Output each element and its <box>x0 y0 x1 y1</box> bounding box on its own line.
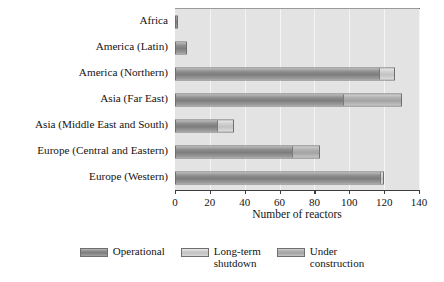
category-label: Europe (Central and Eastern) <box>0 138 172 164</box>
legend-item-operational: Operational <box>80 246 165 258</box>
bar-segment-construction <box>343 95 401 106</box>
x-axis-tick-label: 20 <box>204 196 215 208</box>
x-axis-tick-label: 80 <box>309 196 320 208</box>
x-axis-tick-label: 0 <box>172 196 178 208</box>
category-label: America (Latin) <box>0 34 172 60</box>
bar-rows <box>175 9 419 191</box>
plot-area <box>175 8 420 191</box>
bar-segment-operational <box>176 173 380 184</box>
legend-swatch-construction-icon <box>277 248 305 257</box>
bar-segment-shutdown <box>380 173 383 184</box>
x-axis-tick <box>314 190 315 194</box>
x-axis-tick-label: 60 <box>274 196 285 208</box>
bar-segment-shutdown <box>379 69 394 80</box>
bar-row <box>175 165 419 191</box>
bar-row <box>175 139 419 165</box>
gridline <box>419 9 420 191</box>
bar-segment-operational <box>176 95 343 106</box>
x-axis-title: Number of reactors <box>175 208 419 220</box>
legend-item-under-construction: Under construction <box>277 246 364 270</box>
category-axis-labels: Africa America (Latin) America (Northern… <box>0 8 172 190</box>
x-axis-tick-label: 120 <box>376 196 393 208</box>
bar-segment-operational <box>176 147 292 158</box>
stacked-bar[interactable] <box>175 172 384 185</box>
stacked-bar[interactable] <box>175 146 320 159</box>
x-axis-tick-label: 40 <box>239 196 250 208</box>
category-label: Asia (Middle East and South) <box>0 112 172 138</box>
bar-row <box>175 61 419 87</box>
category-label: Africa <box>0 8 172 34</box>
bar-segment-shutdown <box>217 121 233 132</box>
legend-item-long-term-shutdown: Long-term shutdown <box>181 246 261 270</box>
legend-swatch-operational-icon <box>80 248 108 257</box>
bar-row <box>175 113 419 139</box>
bar-segment-operational <box>176 17 177 28</box>
legend-label: Under construction <box>310 246 364 270</box>
x-axis-tick <box>384 190 385 194</box>
category-label: America (Northern) <box>0 60 172 86</box>
stacked-bar[interactable] <box>175 120 234 133</box>
x-axis-tick-label: 140 <box>411 196 428 208</box>
stacked-bar[interactable] <box>175 94 402 107</box>
x-axis-tick <box>280 190 281 194</box>
bar-segment-construction <box>292 147 319 158</box>
x-axis-tick <box>210 190 211 194</box>
stacked-bar[interactable] <box>175 68 395 81</box>
category-label: Europe (Western) <box>0 164 172 190</box>
bar-row <box>175 87 419 113</box>
bar-row <box>175 9 419 35</box>
x-axis-tick <box>349 190 350 194</box>
x-axis: 020406080100120140 <box>175 190 419 191</box>
bar-segment-operational <box>176 69 379 80</box>
stacked-bar[interactable] <box>175 16 178 29</box>
legend-label: Long-term shutdown <box>214 246 261 270</box>
bar-row <box>175 35 419 61</box>
category-label: Asia (Far East) <box>0 86 172 112</box>
x-axis-tick <box>245 190 246 194</box>
x-axis-tick-label: 100 <box>341 196 358 208</box>
reactor-chart-figure: Africa America (Latin) America (Northern… <box>0 0 444 282</box>
chart-area: Africa America (Latin) America (Northern… <box>0 0 444 228</box>
stacked-bar[interactable] <box>175 42 187 55</box>
bar-segment-operational <box>176 43 186 54</box>
chart-legend: Operational Long-term shutdown Under con… <box>0 240 444 282</box>
bar-segment-operational <box>176 121 217 132</box>
legend-swatch-shutdown-icon <box>181 248 209 257</box>
x-axis-tick <box>175 190 176 194</box>
x-axis-tick <box>419 190 420 194</box>
legend-label: Operational <box>113 246 165 258</box>
